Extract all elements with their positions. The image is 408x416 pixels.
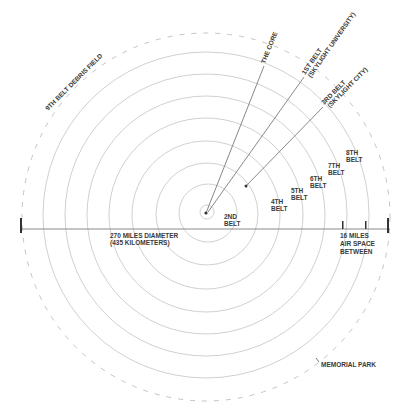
- memorial-park-marker: [316, 358, 319, 362]
- label-2nd-belt-word: BELT: [224, 220, 241, 227]
- label-4th-belt-word: BELT: [271, 205, 288, 212]
- label-1st-belt-sub: (SKYLIGHT UNIVERSITY): [306, 11, 357, 79]
- left-end-tick: [20, 218, 22, 233]
- airspace-tick-left: [342, 221, 344, 229]
- ring-7th-belt: [65, 74, 347, 356]
- label-5th-belt: 5TH: [291, 187, 304, 194]
- label-debris-field: 9TH BELT DEBRIS FIELD: [44, 52, 104, 112]
- diagram-canvas: THE CORE 1ST BELT (SKYLIGHT UNIVERSITY) …: [0, 0, 408, 416]
- label-7th-belt: 7TH: [328, 162, 341, 169]
- label-2nd-belt: 2ND: [224, 213, 237, 220]
- belt3-point: [245, 185, 248, 188]
- ring-6th-belt: [87, 96, 325, 334]
- label-diameter-miles: 270 MILES DIAMETER: [110, 232, 179, 239]
- label-7th-belt-word: BELT: [328, 169, 345, 176]
- right-end-tick: [387, 218, 389, 233]
- label-4th-belt: 4TH: [271, 198, 284, 205]
- label-memorial-park: MEMORIAL PARK: [321, 361, 376, 368]
- ring-5th-belt: [109, 118, 303, 312]
- label-diameter-km: (435 KILOMETERS): [110, 239, 170, 247]
- label-6th-belt: 6TH: [310, 175, 323, 182]
- core-point: [204, 211, 207, 214]
- city-belt-diagram: THE CORE 1ST BELT (SKYLIGHT UNIVERSITY) …: [0, 0, 408, 416]
- label-airspace: AIR SPACE: [340, 240, 376, 247]
- label-airspace-between: BETWEEN: [340, 248, 373, 255]
- label-6th-belt-word: BELT: [310, 182, 327, 189]
- core-leader-line: [206, 66, 264, 213]
- label-airspace-miles: 16 MILES: [340, 232, 370, 239]
- airspace-tick-right: [365, 221, 367, 229]
- label-8th-belt: 8TH: [346, 149, 359, 156]
- label-8th-belt-word: BELT: [346, 156, 363, 163]
- label-5th-belt-word: BELT: [291, 194, 308, 201]
